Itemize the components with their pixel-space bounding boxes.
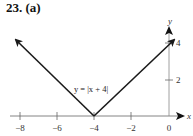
x-tick-label: −2 [126,123,136,133]
left-branch [16,40,94,116]
y-tick-label: 4 [176,38,181,48]
y-axis-label: y [167,16,172,26]
x-axis: −8 −6 −4 −2 0 x [10,111,191,133]
x-tick-label: −6 [52,123,62,133]
function-graph [16,40,174,116]
y-axis: 4 2 y [165,16,181,116]
equation-label: y = |x + 4| [74,84,109,94]
right-branch [94,40,174,116]
graph: −8 −6 −4 −2 0 x 4 2 y y = |x + 4| [0,0,193,136]
x-axis-label: x [186,111,191,121]
x-tick-label: −8 [15,123,25,133]
x-tick-label: 0 [167,123,172,133]
y-tick-label: 2 [176,75,181,85]
x-tick-label: −4 [89,123,99,133]
